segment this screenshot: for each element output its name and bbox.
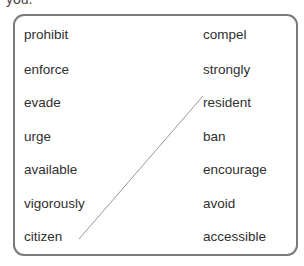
right-word-compel[interactable]: compel — [203, 27, 247, 43]
right-word-accessible[interactable]: accessible — [203, 229, 266, 245]
header-fragment: you. — [6, 0, 32, 7]
matching-box — [13, 14, 298, 256]
left-word-available[interactable]: available — [24, 162, 77, 178]
left-word-vigorously[interactable]: vigorously — [24, 196, 85, 212]
right-word-encourage[interactable]: encourage — [203, 162, 267, 178]
right-word-avoid[interactable]: avoid — [203, 196, 235, 212]
left-word-evade[interactable]: evade — [24, 95, 61, 111]
right-word-resident[interactable]: resident — [203, 95, 251, 111]
left-word-urge[interactable]: urge — [24, 129, 51, 145]
right-word-strongly[interactable]: strongly — [203, 62, 250, 78]
right-word-ban[interactable]: ban — [203, 129, 226, 145]
left-word-citizen[interactable]: citizen — [24, 229, 62, 245]
left-word-enforce[interactable]: enforce — [24, 62, 69, 78]
left-word-prohibit[interactable]: prohibit — [24, 27, 68, 43]
